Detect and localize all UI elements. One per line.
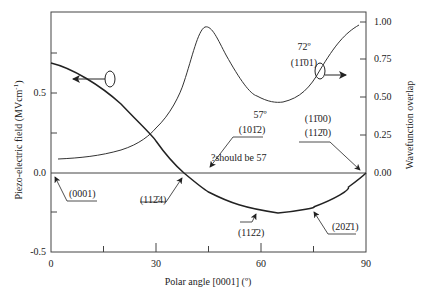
y2-tick-0.75: 0.75 (374, 53, 392, 64)
annotation-should-be-57: ?should be 57 (211, 152, 267, 163)
x-ticks (104, 243, 314, 252)
piezo-curve-marker-ellipse (105, 71, 115, 87)
annotation-90-arrow-icon (299, 142, 360, 170)
wavefunction-overlap-curve (58, 25, 359, 159)
y-tick-0.5: 0.5 (34, 87, 47, 98)
annotation-20-21: (202̄1) (332, 221, 359, 233)
left-y-axis-title: Piezo-electric field (MVcm-1) (12, 80, 25, 199)
x-tick-0: 0 (49, 258, 54, 269)
annotation-1-100: (11̄00) (305, 113, 331, 125)
piezo-field-curve (51, 63, 366, 213)
left-y-ticks (51, 53, 57, 212)
x-tick-90: 90 (361, 258, 371, 269)
annotation-72deg: 72º (297, 41, 310, 52)
annotation-0001: (0001) (69, 188, 96, 200)
x-axis-title: Polar angle [0001] (º) (165, 276, 252, 288)
annotation-11-20: (112̄0) (305, 127, 331, 139)
annotation-57deg: 57º (253, 109, 266, 120)
annotation-1-101: (11̄01) (291, 57, 317, 69)
x-tick-30: 30 (151, 258, 161, 269)
y-tick-neg0.5: -0.5 (30, 246, 46, 257)
annotation-10-12: (101̄2) (239, 124, 266, 136)
chart-svg: 0 30 60 90 0.5 0.0 -0.5 1.00 0.75 0.50 0… (0, 0, 422, 298)
y-tick-0.0: 0.0 (34, 167, 47, 178)
y2-tick-1.00: 1.00 (374, 16, 392, 27)
y2-tick-0.25: 0.25 (374, 129, 392, 140)
y2-tick-0.00: 0.00 (374, 167, 392, 178)
right-y-axis-title: Wavefunction overlap (404, 81, 415, 169)
annotation-1122-arrow-icon (240, 214, 256, 222)
y2-tick-0.50: 0.50 (374, 91, 392, 102)
x-tick-60: 60 (256, 258, 266, 269)
right-y-ticks (360, 22, 366, 135)
annotation-11-24: (112̄4) (140, 194, 166, 206)
annotation-11-22: (112̄2) (238, 227, 264, 239)
